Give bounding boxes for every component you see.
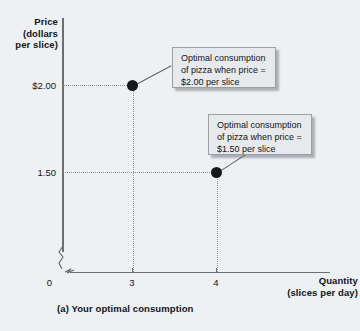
y-tick-label-1-50: 1.50: [4, 167, 56, 178]
guideline-horizontal-1-50: [63, 172, 216, 173]
x-axis-title-line2: (slices per day): [287, 287, 358, 298]
y-axis-title: Price (dollars per slice): [0, 16, 58, 51]
axis-break-icon: [52, 244, 86, 276]
data-point-q4-p1-50[interactable]: [211, 167, 222, 178]
callout-box-2-00[interactable]: Optimal consumption of pizza when price …: [172, 47, 276, 88]
callout-1-line1: Optimal consumption: [181, 53, 268, 65]
guideline-vertical-q4: [217, 172, 218, 272]
x-axis-title: Quantity (slices per day): [236, 275, 358, 298]
y-axis-line: [62, 18, 64, 252]
x-axis-title-line1: Quantity: [319, 275, 358, 286]
x-tick-label-3: 3: [117, 277, 147, 288]
guideline-vertical-q3: [133, 85, 134, 272]
figure-panel-a: Price (dollars per slice) Quantity (slic…: [0, 0, 360, 331]
x-tick-label-4: 4: [201, 277, 231, 288]
data-point-q3-p2-00[interactable]: [127, 80, 138, 91]
y-axis-title-line2: (dollars: [23, 28, 58, 39]
callout-2-line1: Optimal consumption: [217, 120, 304, 132]
callout-2-line2: of pizza when price =: [217, 132, 304, 144]
guideline-horizontal-2-00: [63, 85, 133, 86]
leader-line-callout-1: [134, 65, 172, 86]
x-axis-line: [70, 272, 330, 274]
origin-tick-label: 0: [28, 277, 52, 288]
callout-1-line2: of pizza when price =: [181, 65, 268, 77]
y-axis-title-line3: per slice): [15, 39, 58, 50]
callout-1-line3: $2.00 per slice: [181, 77, 268, 89]
y-axis-title-line1: Price: [34, 16, 58, 27]
callout-box-1-50[interactable]: Optimal consumption of pizza when price …: [208, 114, 312, 155]
callout-2-line3: $1.50 per slice: [217, 144, 304, 156]
y-tick-label-2-00: $2.00: [4, 80, 56, 91]
figure-caption: (a) Your optimal consumption: [57, 303, 194, 314]
